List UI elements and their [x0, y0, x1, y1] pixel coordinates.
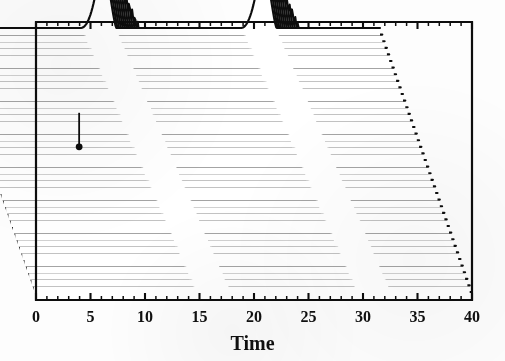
trace-line	[0, 0, 380, 28]
x-tick-label: 30	[355, 309, 371, 325]
x-tick-label: 40	[464, 309, 480, 325]
waterfall-figure: 0510152025303540 Time	[0, 0, 505, 361]
x-axis-title: Time	[0, 332, 505, 355]
x-tick-label: 15	[192, 309, 208, 325]
x-tick-label: 35	[410, 309, 426, 325]
plot-canvas	[0, 0, 505, 361]
x-tick-label: 10	[137, 309, 153, 325]
trace-stack	[0, 0, 472, 300]
x-tick-label: 5	[87, 309, 95, 325]
x-tick-label: 20	[246, 309, 262, 325]
trace-mask	[0, 0, 380, 36]
marker-dot	[76, 143, 83, 150]
x-tick-label: 25	[301, 309, 317, 325]
x-tick-label: 0	[32, 309, 40, 325]
